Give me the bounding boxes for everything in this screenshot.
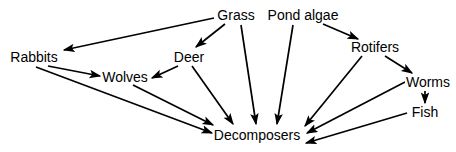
node-pond-algae: Pond algae — [267, 8, 340, 22]
edge-pond-algae-to-decomposers — [277, 25, 293, 124]
node-rotifers: Rotifers — [350, 40, 400, 54]
node-fish: Fish — [411, 105, 439, 119]
edge-fish-to-decomposers — [306, 113, 407, 143]
edge-grass-to-decomposers — [241, 25, 256, 124]
node-grass: Grass — [216, 8, 255, 22]
node-worms: Worms — [405, 75, 451, 89]
food-web-diagram: Grass Pond algae Rabbits Deer Rotifers W… — [0, 0, 456, 152]
edge-grass-to-deer — [196, 24, 225, 47]
node-rabbits: Rabbits — [9, 50, 58, 64]
edge-pond-algae-to-rotifers — [323, 24, 358, 39]
edge-worms-to-decomposers — [307, 82, 405, 133]
edge-grass-to-rabbits — [64, 18, 214, 50]
node-deer: Deer — [173, 50, 205, 64]
edge-deer-to-wolves — [152, 66, 178, 78]
edge-rotifers-to-worms — [385, 56, 412, 73]
edge-deer-to-decomposers — [192, 66, 233, 124]
node-decomposers: Decomposers — [213, 128, 301, 142]
edge-rotifers-to-decomposers — [305, 56, 362, 126]
node-wolves: Wolves — [101, 70, 149, 84]
